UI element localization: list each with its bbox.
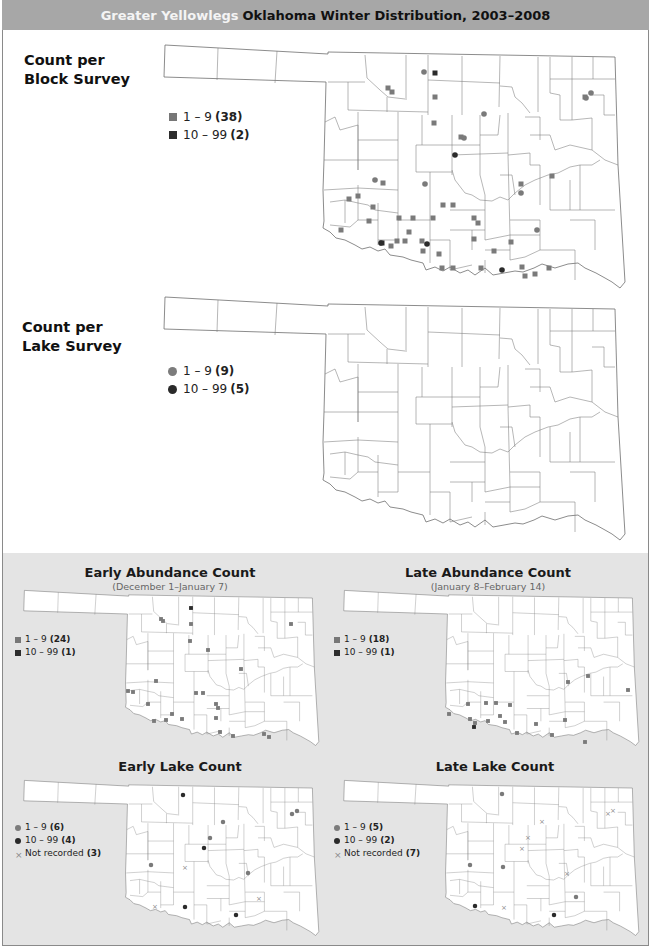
low-count-marker (126, 689, 130, 693)
low-count-marker (214, 702, 218, 706)
high-count-marker (181, 793, 185, 797)
low-count-marker (534, 722, 538, 726)
high-count-marker (183, 905, 187, 909)
low-count-marker (397, 216, 402, 221)
early-lake-map: ××× (2, 774, 322, 940)
low-count-marker (518, 190, 524, 196)
block-survey-map (130, 35, 630, 295)
low-count-marker (231, 734, 235, 738)
low-count-marker (189, 622, 193, 626)
lake-survey-map (130, 287, 630, 547)
low-count-marker (161, 619, 165, 623)
low-count-marker (194, 691, 198, 695)
low-count-marker (437, 252, 442, 257)
low-count-marker (503, 720, 507, 724)
low-count-marker (440, 266, 445, 271)
block-survey-title-text: Count per Block Survey (24, 52, 130, 87)
low-count-marker (473, 721, 477, 725)
low-count-marker (461, 135, 467, 141)
low-count-marker (498, 714, 502, 718)
low-count-marker (411, 216, 416, 221)
low-count-marker (131, 690, 135, 694)
low-count-marker (218, 730, 222, 734)
low-count-marker (586, 674, 590, 678)
high-count-marker (378, 240, 384, 246)
low-count-marker (421, 249, 426, 254)
not-recorded-marker: × (182, 863, 188, 872)
low-count-marker (515, 731, 519, 735)
low-count-marker (289, 622, 293, 626)
high-count-marker (202, 846, 206, 850)
low-count-marker (356, 194, 361, 199)
low-count-marker (295, 809, 299, 813)
low-count-marker (519, 182, 524, 187)
low-count-marker (468, 863, 472, 867)
low-count-marker (367, 219, 372, 224)
low-count-marker (371, 205, 376, 210)
high-count-marker (472, 725, 476, 729)
high-count-marker (433, 71, 438, 76)
high-count-marker (499, 267, 505, 273)
low-count-marker (221, 820, 225, 824)
low-count-marker (441, 203, 446, 208)
low-count-marker (484, 701, 488, 705)
low-count-marker (201, 691, 205, 695)
low-count-marker (494, 701, 498, 705)
late-abundance-map (322, 584, 642, 750)
low-count-marker (390, 90, 395, 95)
low-count-marker (389, 244, 394, 249)
early-abundance-title: Early Abundance Count (60, 565, 280, 580)
lake-survey-title-text: Count per Lake Survey (22, 319, 122, 354)
high-count-marker (424, 241, 430, 247)
low-count-marker (170, 712, 174, 716)
low-count-marker (492, 249, 497, 254)
low-count-marker (472, 216, 477, 221)
low-count-marker (583, 95, 589, 101)
late-lake-title: Late Lake Count (385, 759, 605, 774)
low-count-marker (626, 688, 630, 692)
early-lake-title: Early Lake Count (70, 759, 290, 774)
low-count-marker (214, 716, 218, 720)
low-count-marker (520, 265, 525, 270)
not-recorded-marker: × (564, 869, 570, 878)
low-count-marker (547, 266, 552, 271)
low-count-marker (431, 216, 436, 221)
high-count-marker (473, 904, 477, 908)
low-count-marker (407, 230, 412, 235)
low-count-marker (509, 240, 514, 245)
low-count-marker (479, 266, 484, 271)
low-count-marker (550, 733, 554, 737)
not-recorded-marker: × (152, 902, 158, 911)
low-count-marker (468, 717, 472, 721)
low-count-marker (574, 895, 578, 899)
high-count-marker (552, 913, 556, 917)
not-recorded-marker: × (610, 806, 616, 815)
not-recorded-marker: × (501, 903, 507, 912)
low-count-marker (472, 237, 477, 242)
low-count-marker (563, 718, 567, 722)
low-count-marker (523, 274, 528, 279)
block-survey-title: Count per Block Survey (24, 51, 144, 89)
low-count-marker (432, 121, 437, 126)
low-count-marker (339, 228, 344, 233)
low-count-marker (466, 702, 470, 706)
species-name: Greater Yellowlegs (101, 8, 239, 23)
low-count-marker (395, 239, 400, 244)
not-recorded-marker: × (525, 833, 531, 842)
not-recorded-marker: × (519, 844, 525, 853)
late-lake-map: ××××××× (322, 774, 642, 940)
low-count-marker (146, 702, 150, 706)
late-abundance-title: Late Abundance Count (378, 565, 598, 580)
low-count-marker (152, 719, 156, 723)
low-count-marker (239, 667, 243, 671)
low-count-marker (246, 871, 250, 875)
low-count-marker (508, 703, 512, 707)
low-count-marker (421, 69, 427, 75)
low-count-marker (476, 221, 481, 226)
low-count-marker (164, 718, 168, 722)
not-recorded-marker: × (256, 894, 262, 903)
low-count-marker (481, 111, 487, 117)
low-count-marker (588, 90, 594, 96)
low-count-marker (372, 177, 378, 183)
low-count-marker (290, 812, 294, 816)
